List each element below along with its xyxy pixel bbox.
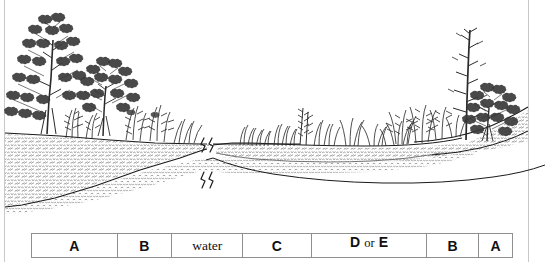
legend-label-b-left: B [139, 238, 149, 254]
legend-cell-1[interactable]: A [32, 234, 118, 257]
legend-cell-7[interactable]: A [479, 234, 512, 257]
legend-cell-3[interactable]: water [172, 234, 243, 257]
legend-label-c: C [272, 238, 282, 254]
legend-label-a-right: A [490, 238, 500, 254]
midbar-grass-clumps [240, 108, 413, 146]
legend-cell-2[interactable]: B [118, 234, 173, 257]
left-bank-tall-tree-canopy [4, 13, 86, 120]
legend-label-or: or [364, 236, 374, 251]
legend-label-e: E [379, 234, 389, 250]
legend-label-d: D [350, 234, 360, 250]
left-bank-second-tree-canopy [76, 57, 140, 112]
legend-label-a-left: A [69, 238, 79, 254]
zone-legend-bar: A B water C D or E B A [31, 233, 513, 258]
legend-cell-5[interactable]: D or E [312, 234, 428, 257]
riparian-cross-section-illustration [0, 0, 545, 224]
legend-cell-4[interactable]: C [243, 234, 312, 257]
right-bank-shrub-row [386, 105, 452, 144]
figure-page: A B water C D or E B A [0, 0, 545, 262]
legend-cell-6[interactable]: B [427, 234, 479, 257]
left-bank-shrub-row-fill [126, 110, 159, 118]
legend-label-b-right: B [448, 238, 458, 254]
legend-label-water: water [192, 238, 222, 254]
left-bank-tall-tree [39, 39, 62, 134]
